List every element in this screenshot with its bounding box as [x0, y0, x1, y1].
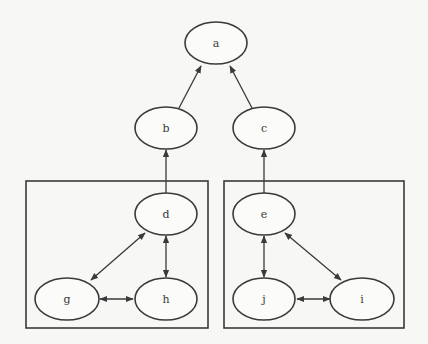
node-label: h — [162, 293, 169, 306]
node-c: c — [233, 107, 295, 149]
edge-e-i — [285, 233, 341, 280]
node-label: b — [162, 122, 169, 135]
node-i: i — [330, 278, 394, 320]
node-e: e — [233, 193, 295, 235]
node-j: j — [233, 278, 295, 320]
node-label: a — [213, 37, 220, 50]
node-d: d — [135, 193, 197, 235]
node-a: a — [185, 22, 247, 64]
node-h: h — [135, 278, 197, 320]
edge-c-a — [230, 66, 252, 108]
node-g: g — [35, 278, 99, 320]
edge-b-a — [179, 66, 201, 108]
node-label: g — [63, 293, 70, 306]
node-b: b — [135, 107, 197, 149]
node-label: d — [162, 208, 169, 221]
node-label: e — [261, 208, 268, 221]
graph-diagram: a b c d e g h j i — [0, 0, 428, 344]
node-label: c — [261, 122, 267, 135]
edge-d-g — [91, 233, 145, 280]
node-label: i — [360, 293, 364, 306]
